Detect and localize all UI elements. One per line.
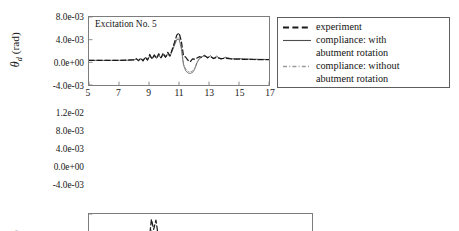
chart-panel-excitation-5: 8.0e-03 4.0e-03 0.0e+00 -4.0e-03 θd (rad… — [0, 0, 290, 108]
series-line — [89, 230, 312, 231]
x-tick-label: 9 — [135, 88, 163, 98]
legend-box: experiment compliance: with abutment rot… — [277, 17, 450, 88]
x-tick-label: 17 — [256, 88, 284, 98]
legend-dashdot-line-icon — [282, 60, 312, 72]
plot-area-excitation-7 — [88, 213, 313, 231]
y-tick-label: 4.0e-03 — [56, 36, 84, 45]
x-tick-label: 13 — [195, 88, 223, 98]
y-tick-label: 4.0e-03 — [56, 145, 84, 154]
legend-label-continued: abutment rotation — [316, 47, 388, 59]
x-tick-label: 11 — [165, 88, 193, 98]
x-tick-label: 7 — [104, 88, 132, 98]
x-tick-label: 5 — [74, 88, 102, 98]
y-tick-label: 8.0e-03 — [56, 127, 84, 136]
legend-entry-with-rotation: compliance: with — [282, 34, 386, 47]
series-line — [89, 37, 269, 72]
figure-container: 8.0e-03 4.0e-03 0.0e+00 -4.0e-03 θd (rad… — [0, 0, 459, 231]
legend-solid-line-icon — [282, 34, 312, 46]
y-tick-label: 0.0e+00 — [54, 163, 84, 172]
chart-panel-excitation-7: 1.2e-02 8.0e-03 4.0e-03 0.0e+00 -4.0e-03… — [0, 100, 340, 231]
legend-entry-without-rotation: compliance: without — [282, 60, 399, 73]
panel-annotation-top: Excitation No. 5 — [95, 19, 157, 29]
series-line — [89, 219, 312, 231]
legend-label: compliance: without — [316, 60, 399, 72]
legend-entry-experiment: experiment — [282, 21, 362, 34]
y-axis-title-top: θd (rad) — [8, 15, 23, 85]
y-tick-label: 8.0e-03 — [56, 13, 84, 22]
legend-label-continued: abutment rotation — [316, 73, 388, 85]
plot-lines-bottom — [89, 214, 312, 231]
legend-label: experiment — [316, 21, 362, 33]
legend-label: compliance: with — [316, 34, 386, 46]
series-line — [89, 39, 269, 73]
legend-dashed-line-icon — [282, 21, 312, 33]
y-tick-label: 1.2e-02 — [56, 109, 84, 118]
y-axis-title-bottom: θd (rad) — [8, 213, 23, 231]
y-tick-label: 0.0e+00 — [54, 59, 84, 68]
y-axis-ticks-bottom: 1.2e-02 8.0e-03 4.0e-03 0.0e+00 -4.0e-03 — [32, 100, 84, 231]
y-tick-label: -4.0e-03 — [53, 181, 84, 190]
x-tick-label: 15 — [226, 88, 254, 98]
